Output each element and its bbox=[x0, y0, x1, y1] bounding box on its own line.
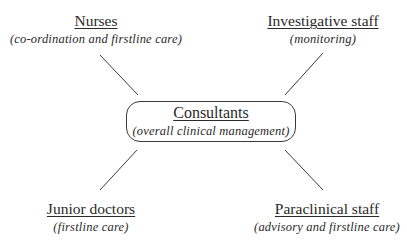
connector-nurses bbox=[100, 55, 138, 95]
node-subtitle: (firstline care) bbox=[47, 219, 135, 235]
node-investigative-staff: Investigative staff (monitoring) bbox=[267, 12, 378, 47]
node-title: Paraclinical staff bbox=[254, 200, 400, 218]
node-paraclinical-staff: Paraclinical staff (advisory and firstli… bbox=[254, 200, 400, 235]
node-subtitle: (co-ordination and firstline care) bbox=[10, 31, 182, 47]
connector-paraclinical bbox=[285, 150, 323, 190]
node-title: Nurses bbox=[10, 12, 182, 30]
node-subtitle: (advisory and firstline care) bbox=[254, 219, 400, 235]
center-title: Consultants bbox=[127, 104, 295, 122]
node-title: Junior doctors bbox=[47, 200, 135, 218]
center-subtitle: (overall clinical management) bbox=[127, 123, 295, 139]
node-subtitle: (monitoring) bbox=[267, 31, 378, 47]
node-junior-doctors: Junior doctors (firstline care) bbox=[47, 200, 135, 235]
center-node-consultants: Consultants (overall clinical management… bbox=[126, 101, 296, 142]
node-nurses: Nurses (co-ordination and firstline care… bbox=[10, 12, 182, 47]
node-title: Investigative staff bbox=[267, 12, 378, 30]
connector-junior bbox=[100, 150, 137, 190]
connector-investigative bbox=[285, 53, 323, 95]
